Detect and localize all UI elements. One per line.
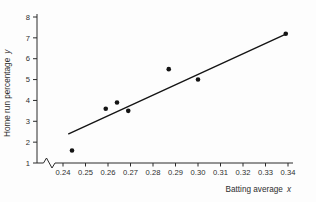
x-tick-label: 0.32 [236, 168, 251, 177]
y-axis-title: Home run percentagey [3, 49, 12, 137]
data-point [283, 31, 288, 36]
x-tick-label: 0.24 [56, 168, 71, 177]
x-tick-label: 0.29 [168, 168, 183, 177]
x-axis-title-text: Batting average [226, 185, 284, 194]
regression-line-group [69, 34, 287, 134]
regression-line [69, 34, 287, 134]
x-tick-label: 0.31 [213, 168, 228, 177]
y-tick-label: 5 [26, 75, 30, 84]
y-tick-label: 6 [26, 54, 30, 63]
y-tick-label: 1 [26, 159, 30, 168]
x-axis-title: Batting averagex [226, 185, 292, 194]
y-axis-variable: y [3, 49, 12, 55]
x-axis-variable: x [286, 185, 292, 194]
x-tick-label: 0.28 [146, 168, 161, 177]
scatter-plot: 12345678 0.240.250.260.270.280.290.300.3… [0, 0, 316, 202]
x-tick-label: 0.26 [101, 168, 116, 177]
y-tick-label: 2 [26, 138, 30, 147]
data-point [126, 109, 131, 114]
y-tick-label: 8 [26, 13, 30, 22]
data-point [166, 67, 171, 72]
y-axis-title-text: Home run percentage [3, 57, 12, 137]
data-point [196, 77, 201, 82]
x-tick-label: 0.25 [78, 168, 93, 177]
x-axis-line-with-break [37, 158, 293, 168]
y-tick-label: 4 [26, 96, 30, 105]
data-point [103, 106, 108, 111]
x-axis-ticks: 0.240.250.260.270.280.290.300.310.320.33… [56, 163, 296, 177]
scatter-chart-panel: 12345678 0.240.250.260.270.280.290.300.3… [0, 0, 316, 202]
x-tick-label: 0.34 [281, 168, 296, 177]
data-point [70, 148, 75, 153]
y-tick-label: 3 [26, 117, 30, 126]
x-tick-label: 0.33 [258, 168, 273, 177]
x-tick-label: 0.27 [123, 168, 138, 177]
y-axis-ticks: 12345678 [26, 13, 37, 168]
x-tick-label: 0.30 [191, 168, 206, 177]
data-points [70, 31, 288, 152]
y-tick-label: 7 [26, 34, 30, 43]
data-point [115, 100, 120, 105]
